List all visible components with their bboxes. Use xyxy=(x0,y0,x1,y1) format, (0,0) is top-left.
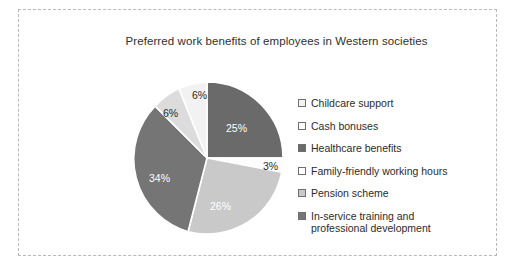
pie-label-in-service-training: 34% xyxy=(149,172,170,184)
pie-svg xyxy=(127,78,287,238)
pie-label-childcare-support: 6% xyxy=(192,89,207,101)
legend-swatch-icon xyxy=(298,167,306,175)
legend-item-label: Childcare support xyxy=(311,97,393,110)
pie-chart: 25% 3% 26% 34% 6% 6% xyxy=(127,78,287,238)
pie-label-healthcare-benefits: 25% xyxy=(226,122,247,134)
legend-item-pension-scheme[interactable]: Pension scheme xyxy=(298,187,498,200)
legend-swatch-icon xyxy=(298,99,306,107)
pie-label-pension-scheme: 26% xyxy=(210,200,231,212)
legend-item-label: Cash bonuses xyxy=(311,120,378,133)
legend-swatch-icon xyxy=(298,189,306,197)
legend-item-healthcare-benefits[interactable]: Healthcare benefits xyxy=(298,142,498,155)
legend-item-label: Healthcare benefits xyxy=(311,142,401,155)
legend-item-in-service-training[interactable]: In-service training and professional dev… xyxy=(298,210,498,235)
legend-item-label: Family-friendly working hours xyxy=(311,165,448,178)
slide-frame: Preferred work benefits of employees in … xyxy=(18,9,497,256)
legend-swatch-icon xyxy=(298,144,306,152)
page-title: Preferred work benefits of employees in … xyxy=(79,33,474,49)
pie-label-cash-bonuses: 3% xyxy=(263,160,278,172)
pie-slice-healthcare-benefits[interactable] xyxy=(207,82,283,158)
legend-item-childcare-support[interactable]: Childcare support xyxy=(298,97,498,110)
legend-item-cash-bonuses[interactable]: Cash bonuses xyxy=(298,120,498,133)
legend-item-label: In-service training and professional dev… xyxy=(311,210,431,235)
chart-legend: Childcare support Cash bonuses Healthcar… xyxy=(298,97,498,235)
pie-label-family-friendly-working-hours: 6% xyxy=(163,107,178,119)
legend-swatch-icon xyxy=(298,212,306,220)
legend-swatch-icon xyxy=(298,122,306,130)
legend-item-label: Pension scheme xyxy=(311,187,389,200)
chart-page: Preferred work benefits of employees in … xyxy=(0,0,511,273)
legend-item-family-friendly-working-hours[interactable]: Family-friendly working hours xyxy=(298,165,498,178)
